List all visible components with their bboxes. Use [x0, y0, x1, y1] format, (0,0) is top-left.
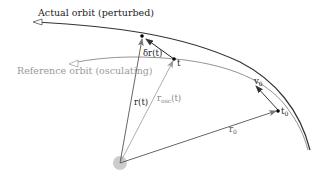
- actual-orbit: [33, 19, 310, 150]
- t0-point: [276, 109, 280, 113]
- v0-vector: [256, 86, 278, 110]
- reference-orbit-label: Reference orbit (osculating): [17, 65, 153, 76]
- orbit-diagram: Actual orbit (perturbed) Reference orbit…: [0, 0, 326, 180]
- r-t-label: r(t): [134, 97, 148, 107]
- osculating-position-point: [172, 57, 176, 61]
- r0-label: r0: [229, 124, 237, 135]
- delta-r-label: δr(t): [143, 48, 162, 58]
- actual-position-point: [140, 34, 144, 38]
- arrow-head-icon: [33, 19, 42, 25]
- r-osc-label: rosc(t): [157, 93, 181, 104]
- t-label: t: [177, 58, 181, 68]
- v0-label: v0: [253, 76, 263, 87]
- actual-orbit-label: Actual orbit (perturbed): [37, 7, 154, 18]
